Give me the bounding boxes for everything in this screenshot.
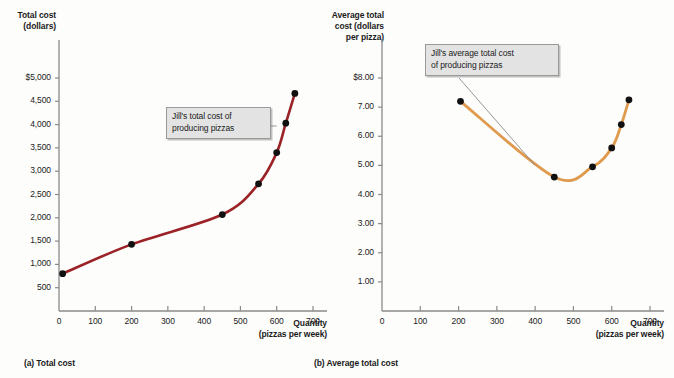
callout-leader-line-panel-b — [459, 78, 535, 165]
callout-line1: Jill's average total cost — [431, 48, 553, 60]
data-point — [291, 90, 298, 97]
y-tick-label: 2,500 — [0, 189, 51, 199]
x-tick-label: 300 — [477, 316, 517, 326]
panel-average-total-cost: Average total cost (dollars per pizza) 1… — [337, 0, 674, 378]
data-point — [128, 241, 135, 248]
x-ticks-panel-b — [420, 306, 650, 311]
callout-total-cost: Jill's total cost of producing pizzas — [166, 107, 271, 139]
x-tick-label: 300 — [148, 316, 188, 326]
y-tick-label: 6.00 — [318, 130, 374, 140]
figure-container: Total cost (dollars) 5001,0001,5002,0002… — [0, 0, 674, 378]
y-tick-label: 1,000 — [0, 258, 51, 268]
y-tick-label: 3,000 — [0, 165, 51, 175]
x-tick-label: 0 — [362, 316, 402, 326]
x-axis-title-line1: Quantity — [537, 318, 664, 329]
callout-line1: Jill's total cost of — [172, 111, 265, 123]
average-total-cost-data-points — [457, 96, 632, 180]
caption-panel-a: (a) Total cost — [24, 358, 75, 368]
y-tick-label: 5.00 — [318, 159, 374, 169]
panel-total-cost: Total cost (dollars) 5001,0001,5002,0002… — [0, 0, 337, 378]
data-point — [618, 121, 625, 128]
callout-line2: of producing pizzas — [431, 60, 553, 72]
x-axis-title-panel-b: Quantity (pizzas per week) — [537, 318, 664, 340]
y-tick-label: 4,500 — [0, 95, 51, 105]
data-point — [551, 174, 558, 181]
y-tick-label: 2.00 — [318, 247, 374, 257]
x-axis-title-line1: Quantity — [200, 318, 327, 329]
axes-panel-b — [382, 40, 664, 311]
x-axis-title-line2: (pizzas per week) — [537, 329, 664, 340]
y-tick-label: 1.00 — [318, 276, 374, 286]
x-tick-label: 200 — [112, 316, 152, 326]
y-tick-label: $5,000 — [0, 72, 51, 82]
y-tick-label: 4,000 — [0, 119, 51, 129]
data-point — [589, 163, 596, 170]
y-tick-label: 3.00 — [318, 218, 374, 228]
x-tick-label: 100 — [400, 316, 440, 326]
data-point — [59, 270, 66, 277]
data-point — [273, 149, 280, 156]
x-axis-title-line2: (pizzas per week) — [200, 329, 327, 340]
y-tick-label: 500 — [0, 282, 51, 292]
x-tick-label: 100 — [75, 316, 115, 326]
x-ticks-panel-a — [95, 306, 313, 311]
data-point — [457, 98, 464, 105]
data-point — [626, 96, 633, 103]
data-point — [255, 180, 262, 187]
y-tick-label: 1,500 — [0, 235, 51, 245]
callout-average-total-cost: Jill's average total cost of producing p… — [425, 44, 559, 76]
x-axis-title-panel-a: Quantity (pizzas per week) — [200, 318, 327, 340]
x-tick-label: 200 — [439, 316, 479, 326]
callout-line2: producing pizzas — [172, 123, 265, 135]
caption-panel-b: (b) Average total cost — [314, 358, 398, 368]
data-point — [282, 120, 289, 127]
y-tick-label: 4.00 — [318, 189, 374, 199]
data-point — [608, 145, 615, 152]
y-tick-label: $8.00 — [318, 72, 374, 82]
data-point — [219, 211, 226, 218]
average-total-cost-curve — [460, 100, 628, 181]
axes-panel-a — [59, 40, 327, 311]
y-tick-label: 3,500 — [0, 142, 51, 152]
y-tick-label: 7.00 — [318, 101, 374, 111]
x-tick-label: 0 — [39, 316, 79, 326]
y-tick-label: 2,000 — [0, 212, 51, 222]
